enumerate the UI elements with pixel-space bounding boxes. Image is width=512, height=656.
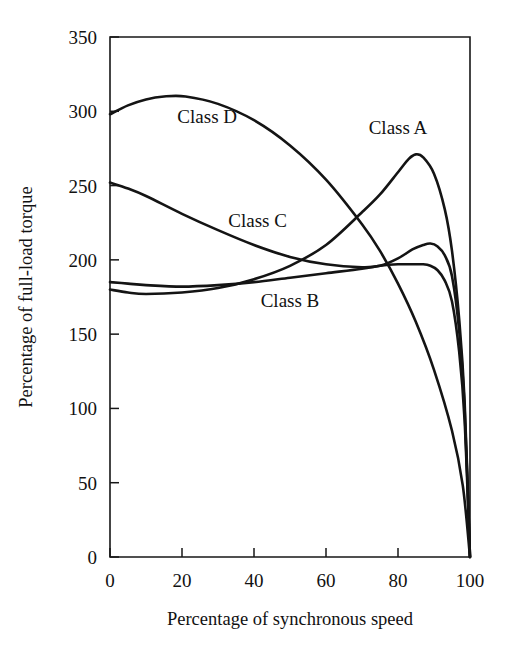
y-tick-label: 250	[69, 176, 98, 197]
series-label-class-a: Class A	[369, 117, 428, 138]
y-tick-label: 150	[69, 324, 98, 345]
torque-speed-chart: 050100150200250300350 020406080100 Class…	[0, 0, 512, 656]
series-label-class-c: Class C	[228, 210, 287, 231]
series-labels: Class AClass BClass CClass D	[177, 106, 427, 311]
x-axis-title: Percentage of synchronous speed	[167, 609, 414, 629]
y-axis-title: Percentage of full-load torque	[16, 186, 36, 407]
x-tick-label: 80	[389, 570, 408, 591]
curve-class-a	[110, 154, 470, 557]
data-curves	[110, 96, 470, 557]
x-tick-label: 20	[173, 570, 192, 591]
y-tick-label: 350	[69, 27, 98, 48]
curve-class-d	[110, 96, 470, 557]
x-axis-ticks	[110, 548, 470, 557]
x-tick-label: 40	[245, 570, 264, 591]
y-tick-label: 100	[69, 398, 98, 419]
y-axis-tick-labels: 050100150200250300350	[69, 27, 98, 568]
x-axis-tick-labels: 020406080100	[105, 570, 484, 591]
x-tick-label: 60	[317, 570, 336, 591]
figure-container: 050100150200250300350 020406080100 Class…	[0, 0, 512, 656]
x-tick-label: 100	[456, 570, 485, 591]
curve-class-c	[110, 183, 470, 557]
y-tick-label: 200	[69, 250, 98, 271]
y-tick-label: 300	[69, 101, 98, 122]
y-tick-label: 50	[78, 473, 97, 494]
series-label-class-b: Class B	[261, 290, 320, 311]
series-label-class-d: Class D	[177, 106, 237, 127]
x-tick-label: 0	[105, 570, 115, 591]
y-tick-label: 0	[88, 547, 98, 568]
